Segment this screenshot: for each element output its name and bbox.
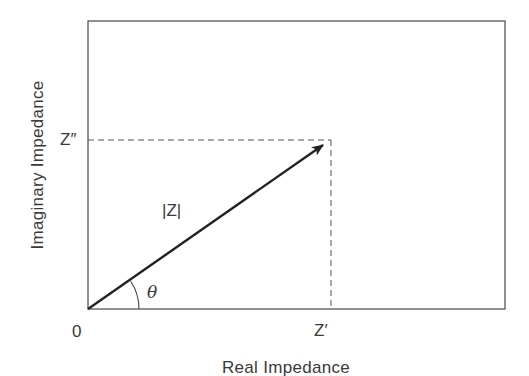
- phase-angle-arc: [131, 281, 139, 309]
- z-real-label: Z′: [314, 322, 328, 339]
- magnitude-vector-arrow: [88, 145, 323, 309]
- magnitude-label: |Z|: [162, 202, 181, 219]
- z-imaginary-label: Z″: [60, 131, 76, 148]
- phase-angle-label: θ: [147, 284, 157, 301]
- y-axis-label: Imaginary Impedance: [29, 80, 46, 249]
- origin-label: 0: [72, 323, 81, 340]
- impedance-diagram: Imaginary Impedance Real Impedance 0 Z″ …: [0, 0, 529, 376]
- diagram-canvas: [0, 0, 529, 376]
- x-axis-label: Real Impedance: [222, 359, 350, 376]
